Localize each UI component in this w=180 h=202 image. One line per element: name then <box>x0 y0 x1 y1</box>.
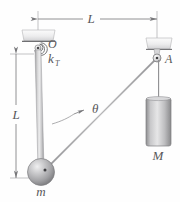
cable-from-bob-to-pulley <box>45 59 156 170</box>
physics-diagram: L L O k T <box>0 0 180 202</box>
dimension-label-horizontal-L: L <box>86 11 94 26</box>
vertical-dimension-L: L <box>10 54 34 178</box>
label-k: k <box>48 51 54 66</box>
label-angle-theta: θ <box>92 101 99 116</box>
sphere-attach-point <box>44 169 47 172</box>
pivot-center-dot <box>37 47 40 50</box>
angle-theta-indicator: θ <box>52 101 99 124</box>
pulley-axle-dot <box>156 57 159 60</box>
support-block-right <box>146 38 172 49</box>
sphere-body <box>28 159 55 186</box>
cable-outline-diagonal <box>45 59 156 170</box>
label-torsional-spring: k T <box>48 51 60 68</box>
label-point-O: O <box>48 37 57 51</box>
label-point-A: A <box>164 52 173 66</box>
diagram-canvas: L L O k T <box>0 0 180 202</box>
pulley-at-A <box>153 54 161 62</box>
bob-mass-m <box>28 159 55 186</box>
theta-arrow <box>74 110 84 114</box>
block-top-ellipse <box>146 97 170 101</box>
hanging-block-mass-M <box>146 97 171 146</box>
dimension-label-vertical-L: L <box>11 107 19 122</box>
label-k-subscript-T: T <box>55 59 60 68</box>
rigid-rod-length-L <box>35 50 44 170</box>
theta-leader-line <box>52 114 74 124</box>
label-mass-M: M <box>152 148 165 163</box>
label-mass-m: m <box>36 184 45 199</box>
block-body <box>146 98 171 146</box>
rod-body <box>35 50 44 170</box>
